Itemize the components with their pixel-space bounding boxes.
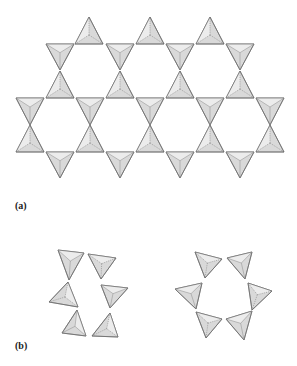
tetrahedron-up	[226, 71, 254, 98]
tetrahedron-up	[166, 71, 194, 98]
tetrahedron-down	[256, 98, 284, 125]
ring-tetrahedron	[248, 283, 272, 310]
chain-tetrahedron	[49, 282, 78, 307]
tetrahedron-up	[256, 125, 284, 152]
chain-tetrahedron	[62, 310, 86, 336]
chain-tetrahedron	[88, 254, 116, 279]
ring-tetrahedron	[175, 283, 202, 309]
tetrahedron-down	[106, 44, 134, 70]
tetrahedron-down	[226, 44, 254, 70]
tetrahedron-down	[16, 98, 44, 125]
chain-tetrahedron	[101, 285, 128, 308]
tetrahedron-up	[16, 125, 44, 152]
panel-b-label: (b)	[15, 340, 27, 351]
tetrahedron-up	[136, 17, 164, 44]
tetrahedron-down	[166, 44, 194, 70]
tetrahedron-up	[106, 71, 134, 98]
chain-tetrahedron	[58, 250, 84, 280]
ring-tetrahedron	[226, 311, 252, 340]
ring-tetrahedron	[196, 312, 222, 338]
tetrahedra-figure	[0, 0, 297, 366]
tetrahedron-down	[166, 152, 194, 178]
tetrahedron-up	[196, 17, 224, 44]
tetrahedron-down	[226, 152, 254, 178]
tetrahedron-up	[76, 125, 104, 152]
tetrahedron-down	[46, 44, 74, 70]
tetrahedron-down	[196, 98, 224, 125]
panel-a-label: (a)	[15, 200, 27, 211]
tetrahedron-up	[136, 125, 164, 152]
ring-tetrahedron	[227, 252, 252, 279]
tetrahedron-down	[76, 98, 104, 125]
tetrahedron-up	[46, 71, 74, 98]
tetrahedron-down	[46, 152, 74, 178]
tetrahedron-up	[196, 125, 224, 152]
tetrahedron-up	[75, 17, 103, 44]
chain-tetrahedron	[92, 313, 118, 337]
ring-tetrahedron	[195, 252, 222, 278]
tetrahedron-down	[106, 152, 134, 178]
tetrahedron-down	[136, 98, 164, 125]
